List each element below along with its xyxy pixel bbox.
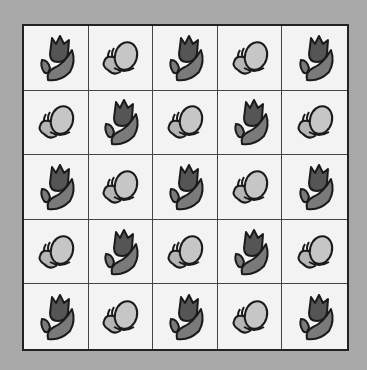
- butterfly-icon: [96, 161, 144, 213]
- tulip-icon: [161, 291, 209, 343]
- grid-cell-1-1[interactable]: [89, 91, 154, 156]
- grid-cell-4-2[interactable]: [153, 284, 218, 349]
- tulip-icon: [161, 161, 209, 213]
- tulip-icon: [161, 32, 209, 84]
- butterfly-icon: [96, 32, 144, 84]
- grid-cell-1-4[interactable]: [282, 91, 347, 156]
- butterfly-icon: [226, 291, 274, 343]
- butterfly-icon: [226, 161, 274, 213]
- grid-cell-3-2[interactable]: [153, 220, 218, 285]
- butterfly-icon: [291, 226, 339, 278]
- tulip-icon: [291, 291, 339, 343]
- grid-cell-2-1[interactable]: [89, 155, 154, 220]
- butterfly-icon: [96, 291, 144, 343]
- grid-cell-2-3[interactable]: [218, 155, 283, 220]
- grid-cell-3-3[interactable]: [218, 220, 283, 285]
- tulip-icon: [226, 226, 274, 278]
- grid-cell-1-2[interactable]: [153, 91, 218, 156]
- butterfly-icon: [161, 96, 209, 148]
- tulip-icon: [32, 32, 80, 84]
- grid-cell-2-2[interactable]: [153, 155, 218, 220]
- grid-cell-0-0[interactable]: [24, 26, 89, 91]
- butterfly-icon: [32, 96, 80, 148]
- grid-cell-4-1[interactable]: [89, 284, 154, 349]
- tulip-icon: [32, 161, 80, 213]
- tulip-icon: [291, 32, 339, 84]
- grid-cell-2-0[interactable]: [24, 155, 89, 220]
- grid-cell-3-0[interactable]: [24, 220, 89, 285]
- grid-cell-0-1[interactable]: [89, 26, 154, 91]
- tulip-icon: [226, 96, 274, 148]
- grid-cell-0-2[interactable]: [153, 26, 218, 91]
- grid-cell-4-0[interactable]: [24, 284, 89, 349]
- butterfly-icon: [291, 96, 339, 148]
- grid-cell-1-0[interactable]: [24, 91, 89, 156]
- tulip-icon: [96, 96, 144, 148]
- icon-grid: [22, 24, 349, 351]
- grid-cell-3-4[interactable]: [282, 220, 347, 285]
- grid-cell-2-4[interactable]: [282, 155, 347, 220]
- butterfly-icon: [161, 226, 209, 278]
- tulip-icon: [96, 226, 144, 278]
- grid-cell-3-1[interactable]: [89, 220, 154, 285]
- butterfly-icon: [226, 32, 274, 84]
- tulip-icon: [32, 291, 80, 343]
- grid-cell-0-3[interactable]: [218, 26, 283, 91]
- grid-cell-1-3[interactable]: [218, 91, 283, 156]
- butterfly-icon: [32, 226, 80, 278]
- grid-cell-4-4[interactable]: [282, 284, 347, 349]
- grid-cell-4-3[interactable]: [218, 284, 283, 349]
- tulip-icon: [291, 161, 339, 213]
- grid-cell-0-4[interactable]: [282, 26, 347, 91]
